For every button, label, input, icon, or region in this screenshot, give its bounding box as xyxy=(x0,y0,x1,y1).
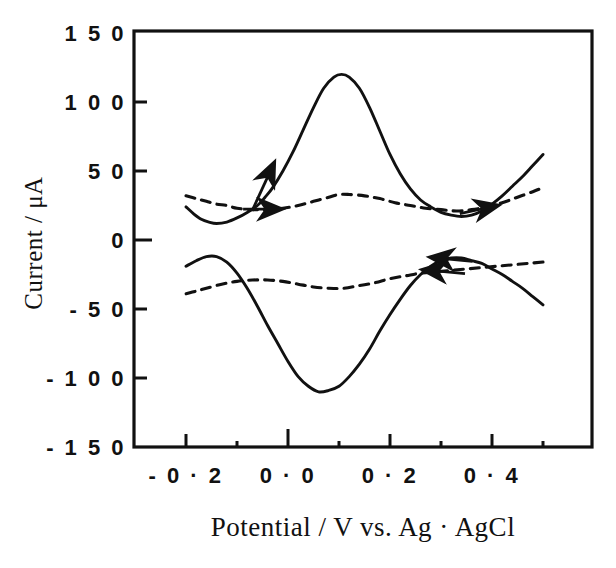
x-axis-label: Potential / V vs. Ag · AgCl xyxy=(211,512,515,542)
x-axis-ticks xyxy=(186,429,543,447)
x-tick-labels: - 0 · 2 0 · 0 0 · 2 0 · 4 xyxy=(149,463,521,488)
data-curves xyxy=(186,74,543,392)
x-tick-label-minus02: - 0 · 2 xyxy=(149,463,224,488)
y-axis-label: Current / μA xyxy=(20,176,47,309)
y-tick-label-150: 1 5 0 xyxy=(65,21,126,46)
x-tick-label-04: 0 · 4 xyxy=(464,463,521,488)
y-tick-label-minus50: - 5 0 xyxy=(69,297,126,322)
cyclic-voltammogram-figure: 1 5 0 1 0 0 5 0 0 - 5 0 - 1 0 0 - 1 5 0 … xyxy=(0,0,616,568)
y-tick-label-minus150: - 1 5 0 xyxy=(46,435,126,460)
arrow-anodic-solid-up xyxy=(252,163,274,211)
y-tick-label-100: 1 0 0 xyxy=(65,90,126,115)
y-tick-label-minus100: - 1 0 0 xyxy=(46,366,126,391)
y-axis-ticks xyxy=(134,102,152,378)
curve-solid-forward-anodic xyxy=(186,74,543,223)
x-tick-label-00: 0 · 0 xyxy=(260,463,317,488)
chart-canvas: 1 5 0 1 0 0 5 0 0 - 5 0 - 1 0 0 - 1 5 0 … xyxy=(0,0,616,568)
y-tick-labels: 1 5 0 1 0 0 5 0 0 - 5 0 - 1 0 0 - 1 5 0 xyxy=(46,21,126,460)
curve-solid-reverse-cathodic xyxy=(186,256,543,392)
x-tick-label-02: 0 · 2 xyxy=(362,463,419,488)
y-tick-label-50: 5 0 xyxy=(88,159,126,184)
y-tick-label-0: 0 xyxy=(111,228,126,253)
